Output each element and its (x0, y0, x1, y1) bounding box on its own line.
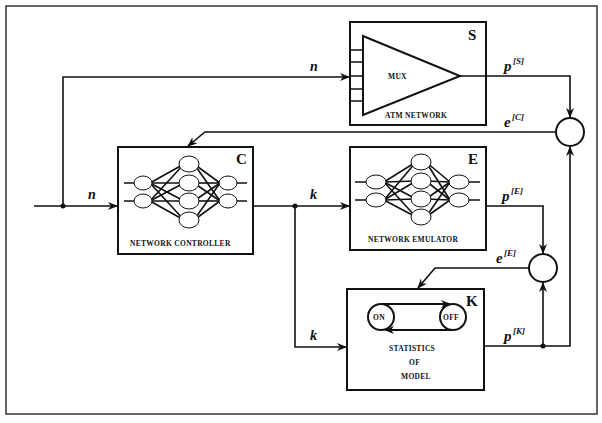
signal-n-top: n (310, 59, 318, 74)
junction-dot-n (61, 204, 66, 209)
signal-p-e: p [E] (500, 186, 523, 204)
signal-k-to-k: k (310, 328, 317, 343)
signal-e-c: e [C] (504, 112, 524, 130)
signal-e-e: e [E] (496, 248, 516, 266)
svg-text:[K]: [K] (513, 326, 525, 336)
signal-wires (34, 76, 570, 347)
block-k-letter: K (466, 293, 478, 309)
block-e-caption: NETWORK EMULATOR (368, 235, 458, 244)
block-e-letter: E (468, 151, 478, 167)
block-k-statistics-model: K ON OFF STATISTICS OF MODEL (347, 289, 484, 390)
block-k-caption-1: STATISTICS (389, 344, 435, 353)
signal-n-input: n (88, 187, 96, 202)
svg-text:e: e (504, 114, 511, 130)
svg-text:[S]: [S] (513, 56, 524, 66)
block-s-caption: ATM NETWORK (385, 111, 447, 120)
svg-text:p: p (500, 188, 510, 204)
junction-dot-k (293, 204, 298, 209)
state-off-label: OFF (443, 313, 459, 322)
block-k-caption-2: OF (409, 358, 420, 367)
svg-text:[E]: [E] (504, 248, 516, 258)
block-c-caption: NETWORK CONTROLLER (130, 239, 231, 248)
summing-junction-2 (529, 254, 557, 282)
mux-label: MUX (388, 72, 407, 81)
signal-p-s: p [S] (502, 56, 524, 74)
svg-text:p: p (502, 58, 512, 74)
block-e-network-emulator: E NETWORK EMULATOR (350, 147, 486, 250)
junction-dot-pk (541, 344, 546, 349)
signal-k-to-e: k (310, 187, 317, 202)
svg-text:p: p (502, 328, 512, 344)
block-c-letter: C (236, 151, 247, 167)
block-s-letter: S (468, 27, 476, 43)
svg-text:e: e (496, 250, 503, 266)
state-on-label: ON (373, 313, 385, 322)
summing-junction-1 (556, 118, 584, 146)
svg-text:[C]: [C] (512, 112, 524, 122)
block-k-caption-3: MODEL (401, 372, 431, 381)
signal-p-k: p [K] (502, 326, 525, 344)
block-s-atm-network: S MUX ATM NETWORK (350, 22, 486, 125)
block-diagram: S MUX ATM NETWORK C (0, 0, 602, 423)
block-c-network-controller: C NETWORK CONTROLLER (118, 147, 253, 254)
svg-text:[E]: [E] (511, 186, 523, 196)
